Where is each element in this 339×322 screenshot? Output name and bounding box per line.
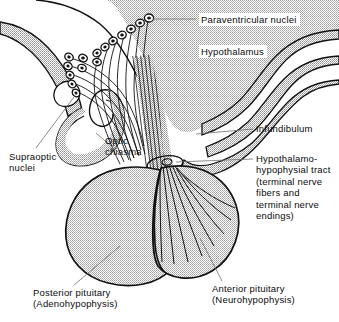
label-infundibulum: Infundibulum — [256, 123, 313, 134]
label-hypothalamo-hypophysial-tract: Hypothalamo- hypophysial tract (terminal… — [256, 153, 331, 221]
pituitary-right-lobe — [153, 165, 239, 278]
label-hypothalamus: Hypothalamus — [199, 45, 267, 58]
anatomical-diagram-figure: Paraventricular nuclei Hypothalamus Infu… — [0, 0, 339, 322]
label-supraoptic-nuclei: Supraoptic nuclei — [9, 151, 56, 174]
label-optic-chiasma: Optic chiasma — [105, 135, 142, 158]
label-paraventricular-nuclei: Paraventricular nuclei — [199, 13, 300, 26]
label-anterior-pituitary: Anterior pituitary (Neurohypophysis) — [212, 283, 295, 306]
label-posterior-pituitary: Posterior pituitary (Adenohypophysis) — [33, 287, 118, 310]
